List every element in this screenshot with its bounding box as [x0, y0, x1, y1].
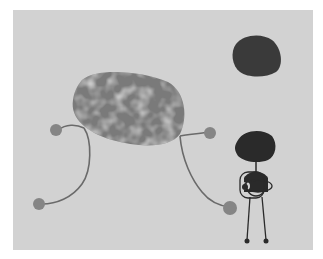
dark-disc	[233, 35, 281, 76]
stick-figure	[235, 131, 275, 243]
creature-body	[73, 72, 185, 145]
painting-artwork	[0, 0, 323, 259]
